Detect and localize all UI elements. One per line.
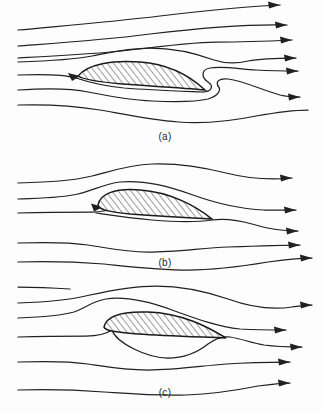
panel-label-c: (c) (145, 387, 185, 398)
panel-a-streamlines (18, 2, 308, 123)
figure-canvas (0, 0, 322, 413)
panel-label-a: (a) (145, 131, 185, 142)
panel-c-streamlines (18, 286, 312, 395)
airfoil-streamline-figure: (a) (b) (c) (0, 0, 322, 413)
panel-c-airfoil (98, 305, 232, 349)
panel-label-b: (b) (145, 257, 185, 268)
panel-c-airfoil-hatching (98, 305, 232, 349)
